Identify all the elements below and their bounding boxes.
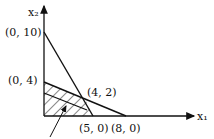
x-axis-label: x₁: [197, 110, 208, 123]
point-label-8-0: (8, 0): [111, 122, 141, 135]
point-label-4-2: (4, 2): [87, 86, 117, 99]
point-label-0-4: (0, 4): [8, 74, 38, 87]
point-label-5-0: (5, 0): [79, 122, 109, 135]
point-label-0-10: (0, 10): [5, 26, 42, 39]
lp-diagram: x₂ x₁ (0, 10) (0, 4) (4, 2) (5, 0) (8, 0…: [0, 0, 214, 139]
y-axis-label: x₂: [28, 6, 39, 19]
